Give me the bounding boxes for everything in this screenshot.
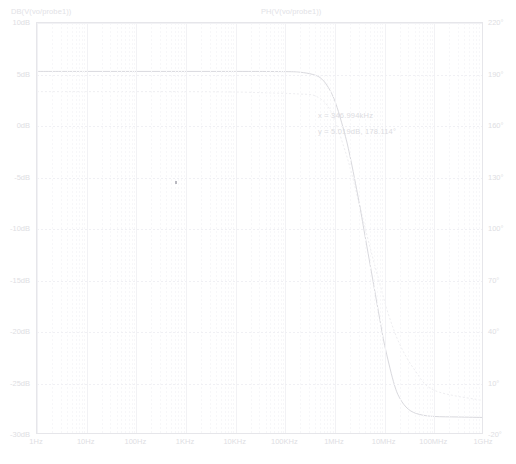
minor-gridline	[84, 23, 85, 433]
minor-gridline	[476, 23, 477, 433]
minor-gridline	[233, 23, 234, 433]
horizontal-gridline	[37, 229, 482, 230]
minor-gridline	[327, 23, 328, 433]
right-axis-tick-label: 130°	[488, 172, 504, 181]
minor-gridline	[382, 23, 383, 433]
minor-gridline	[225, 23, 226, 433]
left-axis-tick-label: -10dB	[10, 224, 30, 233]
x-axis-tick-label: 100Hz	[124, 437, 146, 446]
minor-gridline	[419, 23, 420, 433]
minor-gridline	[76, 23, 77, 433]
cursor-readout-y: y = 5.019dB, 178.114°	[318, 124, 396, 140]
left-axis-tick-label: -20dB	[10, 327, 30, 336]
magnitude-trace-path	[37, 71, 483, 417]
minor-gridline	[400, 23, 401, 433]
minor-gridline	[178, 23, 179, 433]
left-axis-tick-label: -15dB	[10, 275, 30, 284]
minor-gridline	[160, 23, 161, 433]
right-axis-tick-label: 220°	[488, 18, 504, 27]
x-axis-tick-label: 1GHz	[473, 437, 492, 446]
horizontal-gridline	[37, 332, 482, 333]
x-axis-tick-label: 10KHz	[223, 437, 246, 446]
minor-gridline	[320, 23, 321, 433]
left-axis-tick-label: -5dB	[14, 172, 30, 181]
minor-gridline	[283, 23, 284, 433]
right-axis-tick-label: 40°	[488, 327, 499, 336]
minor-gridline	[464, 23, 465, 433]
minor-gridline	[479, 23, 480, 433]
minor-gridline	[166, 23, 167, 433]
minor-gridline	[430, 23, 431, 433]
minor-gridline	[221, 23, 222, 433]
cursor-marker-dot[interactable]	[175, 181, 177, 184]
left-axis-tick-label: -25dB	[10, 378, 30, 387]
minor-gridline	[171, 23, 172, 433]
x-axis-tick-label: 10MHz	[372, 437, 396, 446]
minor-gridline	[469, 23, 470, 433]
horizontal-gridline	[37, 23, 482, 24]
minor-gridline	[181, 23, 182, 433]
vertical-gridline	[186, 23, 187, 433]
plot-area[interactable]	[36, 22, 483, 434]
minor-gridline	[151, 23, 152, 433]
x-axis-tick-label: 10Hz	[77, 437, 95, 446]
minor-gridline	[281, 23, 282, 433]
minor-gridline	[333, 23, 334, 433]
minor-gridline	[210, 23, 211, 433]
minor-gridline	[415, 23, 416, 433]
minor-gridline	[231, 23, 232, 433]
vertical-gridline	[136, 23, 137, 433]
horizontal-gridline	[37, 178, 482, 179]
minor-gridline	[201, 23, 202, 433]
minor-gridline	[458, 23, 459, 433]
minor-gridline	[370, 23, 371, 433]
minor-gridline	[274, 23, 275, 433]
phase-trace-path	[37, 92, 483, 401]
minor-gridline	[216, 23, 217, 433]
waveform-viewer: DB(V(vo/probe1)) PH(V(vo/probe1)) 10dB5d…	[0, 0, 516, 464]
left-axis-tick-label: 5dB	[17, 69, 30, 78]
minor-gridline	[72, 23, 73, 433]
minor-gridline	[102, 23, 103, 433]
minor-gridline	[132, 23, 133, 433]
minor-gridline	[300, 23, 301, 433]
minor-gridline	[380, 23, 381, 433]
phase-trace-label[interactable]: PH(V(vo/probe1))	[261, 7, 321, 16]
vertical-gridline	[335, 23, 336, 433]
x-axis-tick-label: 100MHz	[419, 437, 447, 446]
horizontal-gridline	[37, 384, 482, 385]
minor-gridline	[374, 23, 375, 433]
x-axis-tick-label: 100KHz	[271, 437, 298, 446]
minor-gridline	[251, 23, 252, 433]
minor-gridline	[427, 23, 428, 433]
minor-gridline	[350, 23, 351, 433]
horizontal-gridline	[37, 75, 482, 76]
vertical-gridline	[87, 23, 88, 433]
right-axis-tick-label: 10°	[488, 378, 499, 387]
x-axis-tick-label: 1KHz	[176, 437, 194, 446]
minor-gridline	[129, 23, 130, 433]
minor-gridline	[121, 23, 122, 433]
minor-gridline	[473, 23, 474, 433]
left-axis-tick-label: -30dB	[10, 430, 30, 439]
minor-gridline	[359, 23, 360, 433]
minor-gridline	[266, 23, 267, 433]
minor-gridline	[61, 23, 62, 433]
magnitude-trace-label[interactable]: DB(V(vo/probe1))	[11, 7, 71, 16]
minor-gridline	[449, 23, 450, 433]
minor-gridline	[110, 23, 111, 433]
minor-gridline	[324, 23, 325, 433]
vertical-gridline	[236, 23, 237, 433]
minor-gridline	[134, 23, 135, 433]
minor-gridline	[259, 23, 260, 433]
minor-gridline	[315, 23, 316, 433]
minor-gridline	[184, 23, 185, 433]
horizontal-gridline	[37, 281, 482, 282]
right-axis-tick-label: 190°	[488, 69, 504, 78]
minor-gridline	[125, 23, 126, 433]
minor-gridline	[52, 23, 53, 433]
vertical-gridline	[285, 23, 286, 433]
vertical-gridline	[385, 23, 386, 433]
minor-gridline	[309, 23, 310, 433]
minor-gridline	[79, 23, 80, 433]
